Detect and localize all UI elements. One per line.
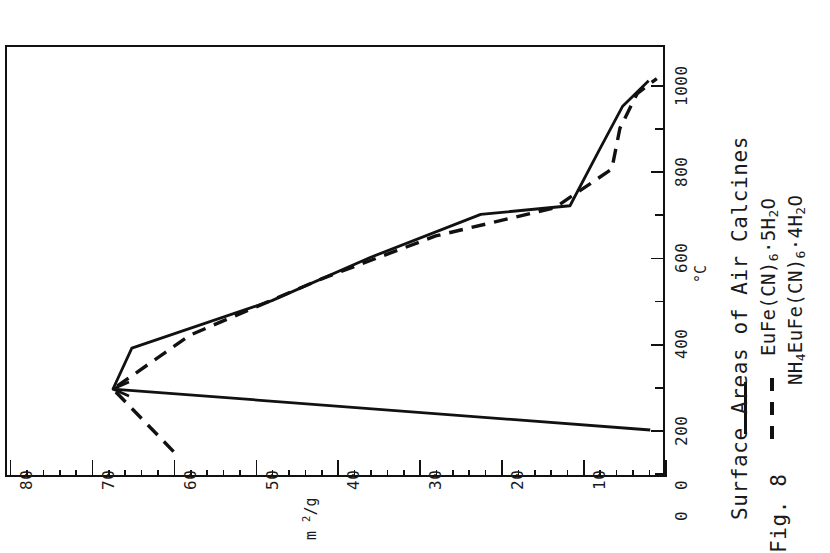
temperature-tick bbox=[655, 387, 665, 389]
surface-area-tick-label: 0 bbox=[672, 480, 691, 490]
figure-title: Surface Areas of Air Calcines bbox=[728, 136, 752, 520]
surface-area-tick bbox=[665, 460, 667, 477]
temperature-tick bbox=[651, 430, 665, 432]
legend-dash-segment bbox=[770, 426, 774, 439]
temperature-tick-label: 0 bbox=[672, 511, 691, 521]
temperature-tick-label: 1000 bbox=[672, 65, 691, 106]
legend-label-0-text: EuFe(CN)6·5H2O bbox=[757, 198, 779, 356]
surface-area-tick-label: 60 bbox=[181, 470, 200, 490]
temperature-tick-label: 800 bbox=[672, 156, 691, 186]
temperature-tick bbox=[651, 171, 665, 173]
legend-key-dashed bbox=[770, 378, 776, 438]
surface-area-tick-label: 10 bbox=[590, 470, 609, 490]
surface-area-tick-label: 20 bbox=[508, 470, 527, 490]
surface-area-tick-label: 50 bbox=[263, 470, 282, 490]
temperature-tick bbox=[651, 258, 665, 260]
legend-label-1-text: NH4EuFe(CN)6·4H2O bbox=[784, 195, 806, 385]
temperature-tick bbox=[651, 85, 665, 87]
temperature-tick bbox=[655, 473, 665, 475]
temperature-tick bbox=[655, 214, 665, 216]
legend-label-0: EuFe(CN)6·5H2O bbox=[757, 198, 781, 356]
surface-area-tick-label: 40 bbox=[344, 470, 363, 490]
temperature-tick-label: 200 bbox=[672, 415, 691, 445]
surface-area-tick-label: 80 bbox=[17, 470, 36, 490]
temperature-tick-marks bbox=[5, 45, 665, 477]
temperature-axis-title: °C bbox=[692, 265, 710, 283]
legend-dash-segment bbox=[770, 378, 774, 391]
temperature-tick-label: 600 bbox=[672, 243, 691, 273]
temperature-tick bbox=[651, 344, 665, 346]
surface-area-tick-label: 70 bbox=[99, 470, 118, 490]
legend-dash-segment bbox=[770, 402, 774, 415]
temperature-tick bbox=[655, 301, 665, 303]
legend-label-1: NH4EuFe(CN)6·4H2O bbox=[784, 195, 808, 385]
surface-area-axis-title: m 2/g bbox=[300, 498, 320, 540]
temperature-tick bbox=[655, 128, 665, 130]
temperature-tick-label: 400 bbox=[672, 329, 691, 359]
surface-area-tick-label: 30 bbox=[426, 470, 445, 490]
figure-label: Fig. 8 bbox=[767, 474, 791, 553]
